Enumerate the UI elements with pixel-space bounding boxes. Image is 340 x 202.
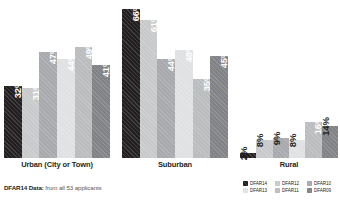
bar-value-label: 8% (288, 133, 298, 146)
grouped-bar-chart: 32%31%47%44%49%41%66%61%44%48%35%45%2%8%… (0, 0, 340, 202)
bar[interactable]: 47% (39, 52, 57, 158)
bar[interactable]: 2% (240, 153, 256, 158)
bar-slot: 45% (210, 0, 228, 158)
bar-slot: 66% (122, 0, 140, 158)
bar[interactable]: 48% (175, 50, 193, 158)
legend-item[interactable]: DFAR12 (275, 181, 307, 186)
legend-swatch (243, 181, 248, 186)
category-label: Suburban (122, 160, 228, 169)
bar-value-label: 9% (271, 131, 281, 144)
category-label: Rural (240, 160, 338, 169)
bar-value-label: 8% (255, 133, 265, 146)
bar[interactable]: 45% (210, 56, 228, 158)
bar-slot: 61% (140, 0, 158, 158)
footnote-bold: DFAR14 Data: (4, 184, 44, 191)
legend-item[interactable]: DFAR09 (307, 188, 339, 193)
bar[interactable]: 14% (322, 126, 338, 158)
bar[interactable]: 66% (122, 9, 140, 158)
bar-slot: 44% (57, 0, 75, 158)
bar-value-label: 41% (101, 59, 111, 77)
bar-slot: 32% (4, 0, 22, 158)
footnote-rest: from all 53 applicants (44, 184, 102, 191)
bar-value-label: 2% (239, 146, 249, 159)
bar-group: 66%61%44%48%35%45% (122, 0, 228, 158)
bar-slot: 44% (157, 0, 175, 158)
plot-area: 32%31%47%44%49%41%66%61%44%48%35%45%2%8%… (0, 0, 340, 158)
legend-item[interactable]: DFAR10 (307, 181, 339, 186)
bar-value-label: 66% (131, 3, 141, 21)
legend-swatch (307, 188, 312, 193)
legend-item[interactable]: DFAR13 (243, 188, 275, 193)
legend-label: DFAR09 (314, 188, 331, 193)
legend-swatch (275, 181, 280, 186)
bar[interactable]: 41% (92, 65, 110, 158)
bar-group-bars: 66%61%44%48%35%45% (122, 0, 228, 158)
footnote: DFAR14 Data: from all 53 applicants (4, 184, 102, 191)
bar-value-label: 48% (184, 44, 194, 62)
legend-swatch (275, 188, 280, 193)
legend-swatch (243, 188, 248, 193)
bar-value-label: 49% (84, 41, 94, 59)
bar-group-bars: 2%8%9%8%16%14% (240, 0, 338, 158)
bar[interactable]: 44% (57, 59, 75, 158)
bar-slot: 49% (75, 0, 93, 158)
bar-value-label: 14% (320, 117, 330, 135)
bar[interactable]: 49% (75, 47, 93, 158)
legend: DFAR14DFAR12DFAR10DFAR13DFAR11DFAR09 (243, 181, 339, 195)
legend-label: DFAR11 (282, 188, 299, 193)
bar-group-bars: 32%31%47%44%49%41% (4, 0, 110, 158)
bar-slot: 35% (193, 0, 211, 158)
bar[interactable]: 32% (4, 86, 22, 158)
legend-swatch (307, 181, 312, 186)
category-label: Urban (City or Town) (4, 160, 110, 169)
bar-value-label: 45% (219, 50, 229, 68)
bar-value-label: 61% (149, 14, 159, 32)
bar[interactable]: 31% (22, 88, 40, 158)
legend-item[interactable]: DFAR11 (275, 188, 307, 193)
bar-slot: 8% (289, 0, 305, 158)
legend-label: DFAR14 (250, 181, 267, 186)
legend-item[interactable]: DFAR14 (243, 181, 275, 186)
bar-slot: 31% (22, 0, 40, 158)
legend-label: DFAR13 (250, 188, 267, 193)
bar-slot: 47% (39, 0, 57, 158)
bar[interactable]: 35% (193, 79, 211, 158)
bar-slot: 14% (322, 0, 338, 158)
legend-label: DFAR12 (282, 181, 299, 186)
legend-label: DFAR10 (314, 181, 331, 186)
bar[interactable]: 8% (289, 140, 305, 158)
bar-slot: 41% (92, 0, 110, 158)
bar[interactable]: 61% (140, 20, 158, 158)
bar-group: 2%8%9%8%16%14% (240, 0, 338, 158)
bar-slot: 48% (175, 0, 193, 158)
bar[interactable]: 44% (157, 59, 175, 158)
bar-group: 32%31%47%44%49%41% (4, 0, 110, 158)
category-axis: Urban (City or Town) Suburban Rural (0, 160, 340, 174)
